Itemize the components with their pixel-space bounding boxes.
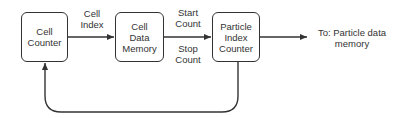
- cell-data-memory-node: CellDataMemory: [115, 12, 164, 62]
- output-destination-label: To: Particle datamemory: [312, 27, 392, 49]
- node-label: Cell: [122, 21, 156, 32]
- node-label: Data: [122, 32, 156, 43]
- node-label: Particle: [219, 21, 253, 32]
- node-label: Counter: [219, 43, 253, 54]
- node-label: Index: [219, 32, 253, 43]
- particle-index-counter-node: ParticleIndexCounter: [212, 12, 260, 62]
- stop-count-label: StopCount: [172, 43, 204, 65]
- node-label: Memory: [122, 43, 156, 54]
- node-label: Counter: [28, 37, 62, 48]
- node-label: Cell: [28, 26, 62, 37]
- feedback-loop-arrow: [45, 62, 238, 112]
- cell-index-label: CellIndex: [80, 8, 104, 30]
- start-count-label: StartCount: [172, 7, 204, 29]
- cell-counter-node: CellCounter: [21, 12, 68, 62]
